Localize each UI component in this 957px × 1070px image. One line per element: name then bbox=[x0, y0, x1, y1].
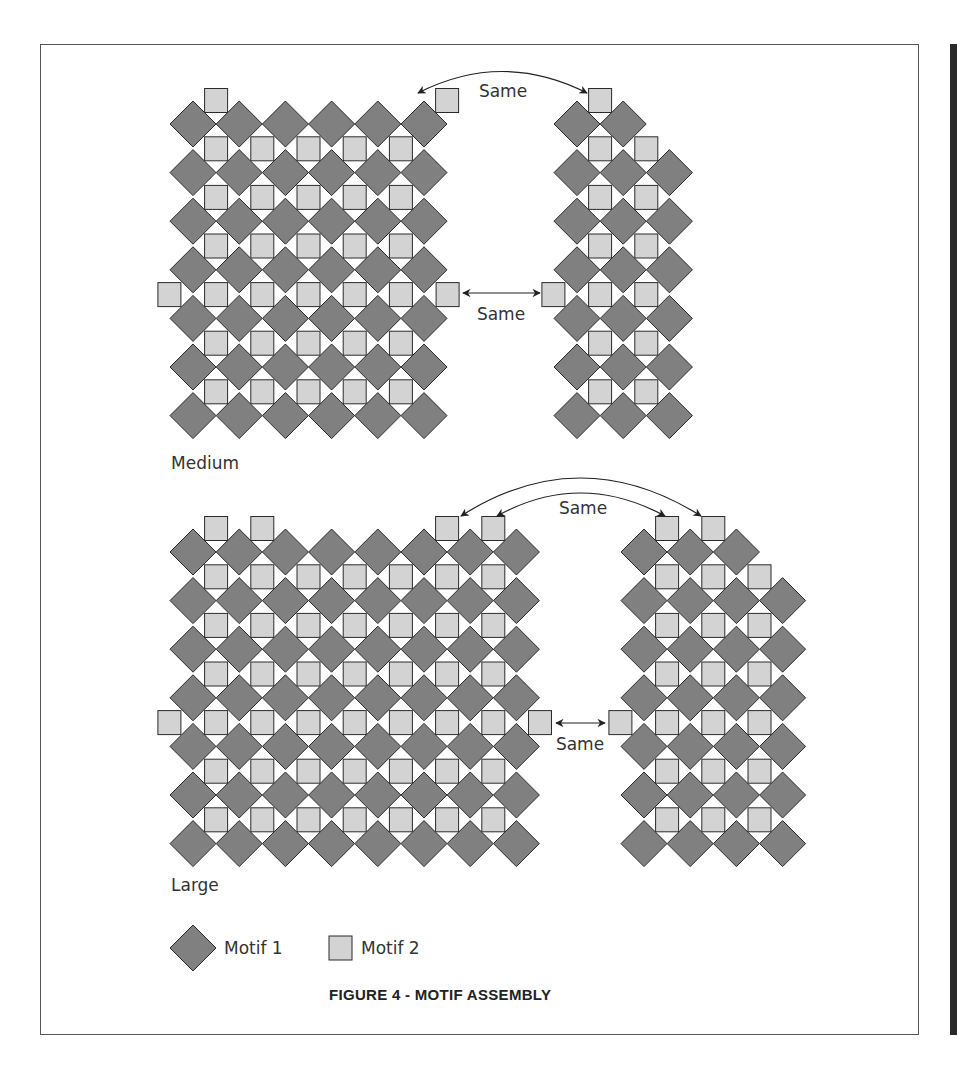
motif-2-square bbox=[205, 331, 228, 355]
motif-2-square bbox=[343, 565, 366, 589]
motif-2-square bbox=[251, 711, 274, 735]
motif-2-square bbox=[702, 613, 725, 637]
same-label: Same bbox=[556, 734, 604, 754]
motif-2-square bbox=[297, 759, 320, 783]
motif-1-diamond-icon bbox=[170, 925, 216, 971]
motif-2-square bbox=[656, 613, 679, 637]
motif-2-square bbox=[482, 662, 505, 686]
motif-2-square bbox=[542, 283, 565, 307]
large-label: Large bbox=[171, 875, 219, 895]
legend-item-motif-2: Motif 2 bbox=[329, 936, 420, 960]
tile-layer bbox=[158, 89, 806, 867]
motif-2-square bbox=[436, 89, 459, 113]
motif-2-square bbox=[748, 808, 771, 832]
motif-assembly-diagram: Same Same Same Same Medium Large Motif 1… bbox=[0, 0, 957, 1070]
motif-2-square bbox=[436, 808, 459, 832]
motif-2-square bbox=[635, 185, 658, 209]
motif-2-square bbox=[343, 380, 366, 404]
motif-2-square bbox=[436, 759, 459, 783]
motif-2-square-icon bbox=[329, 936, 352, 960]
motif-2-square bbox=[748, 711, 771, 735]
motif-2-square bbox=[343, 283, 366, 307]
motif-2-square bbox=[297, 808, 320, 832]
legend-item-motif-1: Motif 1 bbox=[170, 925, 283, 971]
motif-2-square bbox=[251, 662, 274, 686]
motif-2-square bbox=[656, 759, 679, 783]
motif-2-square bbox=[656, 662, 679, 686]
motif-2-square bbox=[482, 759, 505, 783]
motif-2-square bbox=[158, 711, 181, 735]
motif-2-square bbox=[297, 380, 320, 404]
motif-2-square bbox=[589, 331, 612, 355]
motif-2-square bbox=[635, 234, 658, 258]
motif-2-square bbox=[251, 137, 274, 161]
motif-2-square bbox=[297, 283, 320, 307]
motif-2-square bbox=[389, 662, 412, 686]
motif-2-square bbox=[702, 808, 725, 832]
motif-2-square bbox=[589, 185, 612, 209]
same-label: Same bbox=[559, 498, 607, 518]
motif-2-square bbox=[297, 137, 320, 161]
motif-2-square bbox=[635, 380, 658, 404]
motif-2-square bbox=[589, 137, 612, 161]
motif-2-square bbox=[389, 711, 412, 735]
motif-2-square bbox=[389, 380, 412, 404]
motif-2-square bbox=[343, 808, 366, 832]
motif-2-square bbox=[702, 759, 725, 783]
motif-2-square bbox=[436, 565, 459, 589]
large-middle-same-arrow: Same bbox=[556, 723, 605, 754]
motif-2-square bbox=[251, 185, 274, 209]
motif-2-square bbox=[205, 283, 228, 307]
motif-2-square bbox=[656, 808, 679, 832]
motif-2-square bbox=[389, 234, 412, 258]
motif-2-square bbox=[205, 711, 228, 735]
motif-2-square bbox=[482, 613, 505, 637]
figure-caption: FIGURE 4 - MOTIF ASSEMBLY bbox=[329, 986, 551, 1003]
motif-2-square bbox=[702, 517, 725, 541]
motif-2-square bbox=[205, 565, 228, 589]
motif-2-square bbox=[702, 565, 725, 589]
legend-label: Motif 1 bbox=[224, 938, 283, 958]
motif-2-square bbox=[389, 137, 412, 161]
motif-2-square bbox=[482, 808, 505, 832]
motif-2-square bbox=[205, 380, 228, 404]
motif-2-square bbox=[389, 185, 412, 209]
motif-2-square bbox=[297, 565, 320, 589]
motif-2-square bbox=[205, 137, 228, 161]
motif-2-square bbox=[635, 137, 658, 161]
motif-2-square bbox=[702, 711, 725, 735]
motif-2-square bbox=[251, 380, 274, 404]
same-label: Same bbox=[479, 81, 527, 101]
motif-2-square bbox=[205, 662, 228, 686]
motif-2-square bbox=[251, 565, 274, 589]
motif-2-square bbox=[297, 331, 320, 355]
motif-2-square bbox=[343, 185, 366, 209]
motif-2-square bbox=[656, 711, 679, 735]
motif-2-square bbox=[389, 613, 412, 637]
motif-2-square bbox=[205, 185, 228, 209]
motif-2-square bbox=[589, 283, 612, 307]
motif-2-square bbox=[343, 662, 366, 686]
motif-2-square bbox=[251, 759, 274, 783]
motif-2-square bbox=[251, 613, 274, 637]
legend-label: Motif 2 bbox=[361, 938, 420, 958]
motif-2-square bbox=[482, 711, 505, 735]
motif-2-square bbox=[589, 380, 612, 404]
motif-2-square bbox=[251, 808, 274, 832]
motif-2-square bbox=[529, 711, 552, 735]
motif-2-square bbox=[436, 662, 459, 686]
motif-2-square bbox=[343, 234, 366, 258]
motif-2-square bbox=[205, 613, 228, 637]
motif-2-square bbox=[158, 283, 181, 307]
motif-2-square bbox=[297, 711, 320, 735]
motif-2-square bbox=[389, 331, 412, 355]
motif-2-square bbox=[589, 89, 612, 113]
motif-2-square bbox=[205, 234, 228, 258]
medium-label: Medium bbox=[171, 453, 239, 473]
motif-2-square bbox=[656, 517, 679, 541]
medium-middle-same-arrow: Same bbox=[463, 293, 540, 324]
motif-2-square bbox=[656, 565, 679, 589]
motif-2-square bbox=[343, 137, 366, 161]
motif-2-square bbox=[251, 283, 274, 307]
motif-2-square bbox=[702, 662, 725, 686]
